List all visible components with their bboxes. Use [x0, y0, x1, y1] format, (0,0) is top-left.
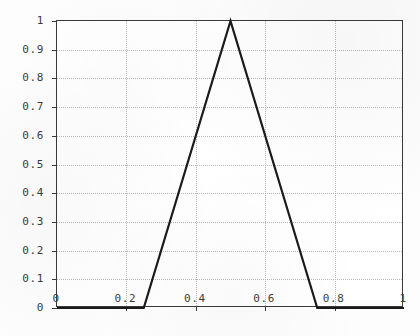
y-tick-label: 1	[0, 14, 44, 27]
y-tick-label: 0.4	[0, 186, 44, 199]
y-tick-label: 0.8	[0, 71, 44, 84]
y-tick-label: 0.7	[0, 100, 44, 113]
y-tick-label: 0.2	[0, 243, 44, 256]
series-line-triangular-membership	[57, 21, 404, 308]
y-tick-label: 0.9	[0, 42, 44, 55]
y-tick-label: 0.5	[0, 157, 44, 170]
y-tick-label: 0.1	[0, 272, 44, 285]
plot-area	[56, 20, 403, 307]
data-series-layer	[57, 21, 404, 308]
y-tick-label: 0	[0, 301, 44, 314]
y-tick-label: 0.3	[0, 214, 44, 227]
chart-page: 00.10.20.30.40.50.60.70.80.91 00.20.40.6…	[0, 0, 420, 336]
y-tick-label: 0.6	[0, 128, 44, 141]
tick-mark-y	[52, 308, 57, 309]
